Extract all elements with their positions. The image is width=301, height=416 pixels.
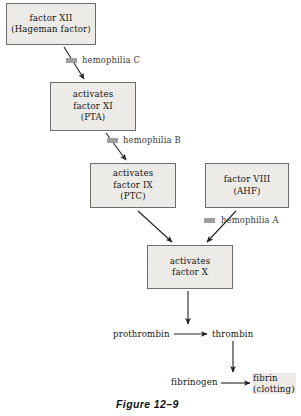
arrow-ix-to-x [138, 211, 172, 242]
box-line: (PTC) [120, 191, 146, 203]
hemophilia-a-marker-icon [204, 218, 215, 223]
arrow-layer [0, 0, 301, 416]
hemophilia-b-label: hemophilia B [123, 135, 181, 145]
box-factor-xii: factor XII (Hageman factor) [6, 3, 96, 45]
box-line: activates [170, 256, 210, 268]
box-line: factor IX [113, 180, 152, 192]
fibrin-line: fibrin [253, 373, 278, 383]
box-line: factor X [172, 267, 208, 279]
box-line: factor VIII [224, 174, 271, 186]
label-fibrin-clotting: fibrin (clotting) [252, 373, 296, 394]
box-line: factor XI [73, 101, 112, 113]
fibrin-line: (clotting) [253, 384, 295, 394]
hemophilia-c-label: hemophilia C [82, 55, 140, 65]
label-thrombin: thrombin [212, 329, 253, 339]
box-line: activates [113, 168, 153, 180]
box-activates-factor-ix: activates factor IX (PTC) [90, 163, 176, 208]
arrow-xii-to-xi [64, 47, 84, 79]
coagulation-cascade-diagram: factor XII (Hageman factor) activates fa… [0, 0, 301, 416]
hemophilia-b-marker-icon [107, 138, 118, 143]
box-line: activates [73, 89, 113, 101]
box-activates-factor-xi: activates factor XI (PTA) [50, 82, 136, 131]
box-line: (PTA) [81, 112, 106, 124]
box-activates-factor-x: activates factor X [147, 245, 233, 289]
box-line: (Hageman factor) [11, 24, 91, 36]
box-line: factor XII [30, 13, 73, 25]
hemophilia-c-marker-icon [66, 58, 77, 63]
label-prothrombin: prothrombin [113, 329, 170, 339]
box-line: (AHF) [233, 186, 260, 198]
hemophilia-a-label: hemophilia A [221, 215, 279, 225]
box-factor-viii: factor VIII (AHF) [205, 163, 289, 208]
figure-caption: Figure 12–9 [116, 398, 179, 410]
label-fibrinogen: fibrinogen [171, 377, 218, 387]
